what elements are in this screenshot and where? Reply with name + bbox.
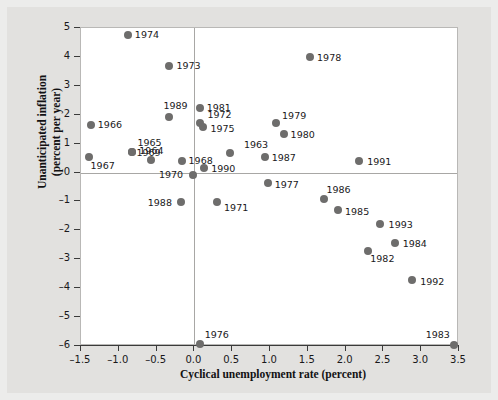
data-point-label: 1986 — [326, 185, 350, 195]
y-axis-tick — [74, 229, 80, 230]
data-point-label: 1970 — [159, 170, 183, 180]
data-point — [124, 31, 132, 39]
data-point-label: 1983 — [426, 330, 450, 340]
chart-figure: 1963196419651966196719681969197019711972… — [0, 0, 498, 400]
data-point-label: 1976 — [205, 330, 229, 340]
y-axis-tick-label: 2 — [46, 109, 70, 119]
y-axis-tick-label: 5 — [46, 22, 70, 32]
data-point-label: 1975 — [210, 124, 234, 134]
y-axis-tick — [74, 316, 80, 317]
data-point-label: 1985 — [345, 207, 369, 217]
data-point-label: 1988 — [148, 198, 172, 208]
y-axis-tick — [74, 287, 80, 288]
x-axis-tick-label: 1.5 — [290, 354, 324, 365]
data-point — [408, 276, 416, 284]
data-point-label: 1992 — [420, 277, 444, 287]
x-axis-tick — [269, 345, 270, 351]
data-point-label: 1971 — [224, 203, 248, 213]
y-axis-tick-label: –3 — [46, 253, 70, 263]
y-axis-tick-label: 0 — [46, 167, 70, 177]
x-axis-tick-label: 3.5 — [441, 354, 475, 365]
x-axis-tick — [458, 345, 459, 351]
y-axis-tick-label: 3 — [46, 80, 70, 90]
data-point-label: 1982 — [370, 254, 394, 264]
data-point — [178, 157, 186, 165]
x-axis-tick — [80, 345, 81, 351]
data-point-label: 1991 — [367, 157, 391, 167]
data-point — [320, 195, 328, 203]
data-point — [355, 157, 363, 165]
x-axis-tick-label: 0.0 — [176, 354, 210, 365]
data-point-label: 1980 — [291, 130, 315, 140]
data-point — [450, 341, 458, 349]
x-axis-tick — [231, 345, 232, 351]
data-point — [261, 153, 269, 161]
y-axis-tick-label: 4 — [46, 51, 70, 61]
y-axis-tick — [74, 27, 80, 28]
data-point — [196, 340, 204, 348]
vertical-zero-line — [194, 28, 195, 344]
x-axis-title: Cyclical unemployment rate (percent) — [180, 368, 480, 380]
x-axis-tick — [118, 345, 119, 351]
data-point — [189, 171, 197, 179]
data-point-label: 1987 — [272, 153, 296, 163]
data-point-label: 1978 — [317, 53, 341, 63]
x-axis-tick — [382, 345, 383, 351]
data-point — [264, 179, 272, 187]
y-axis-tick — [74, 114, 80, 115]
data-point-label: 1984 — [403, 239, 427, 249]
scatter-plot-area: 1963196419651966196719681969197019711972… — [80, 27, 458, 345]
data-point — [200, 164, 208, 172]
data-point — [196, 104, 204, 112]
x-axis-tick-label: 0.5 — [214, 354, 248, 365]
data-point — [87, 121, 95, 129]
data-point-label: 1989 — [163, 101, 187, 111]
data-point-label: 1990 — [211, 164, 235, 174]
x-axis-tick — [307, 345, 308, 351]
y-axis-tick — [74, 172, 80, 173]
x-axis-tick-label: 2.0 — [328, 354, 362, 365]
y-axis-tick-label: 1 — [46, 138, 70, 148]
figure-border-bottom — [0, 393, 498, 400]
x-axis-tick — [156, 345, 157, 351]
y-axis-tick — [74, 200, 80, 201]
figure-border-left — [0, 0, 7, 400]
data-point — [165, 62, 173, 70]
x-axis-tick-label: 1.0 — [252, 354, 286, 365]
y-axis-tick — [74, 56, 80, 57]
data-point — [177, 198, 185, 206]
x-axis-tick-label: –0.5 — [139, 354, 173, 365]
data-point — [165, 113, 173, 121]
data-point — [128, 148, 136, 156]
data-point-label: 1993 — [389, 220, 413, 230]
horizontal-zero-line — [81, 173, 457, 174]
y-axis-tick-label: –6 — [46, 340, 70, 350]
y-axis-tick — [74, 85, 80, 86]
x-axis-tick-label: –1.5 — [63, 354, 97, 365]
data-point-label: 1966 — [98, 120, 122, 130]
y-axis-tick-label: –5 — [46, 311, 70, 321]
data-point — [280, 130, 288, 138]
data-point — [213, 198, 221, 206]
data-point — [226, 149, 234, 157]
data-point-label: 1963 — [244, 140, 268, 150]
x-axis-tick-label: 3.0 — [403, 354, 437, 365]
x-axis-tick — [193, 345, 194, 351]
y-axis-tick — [74, 143, 80, 144]
figure-border-top — [0, 0, 498, 7]
y-axis-tick-label: –1 — [46, 195, 70, 205]
figure-border-right — [491, 0, 498, 400]
data-point-label: 1977 — [275, 180, 299, 190]
data-point — [391, 239, 399, 247]
data-point — [334, 206, 342, 214]
data-point — [199, 123, 207, 131]
data-point-label: 1973 — [176, 61, 200, 71]
x-axis-tick-label: 2.5 — [365, 354, 399, 365]
data-point — [306, 53, 314, 61]
data-point-label: 1979 — [282, 111, 306, 121]
data-point — [272, 119, 280, 127]
y-axis-tick-label: –2 — [46, 224, 70, 234]
data-point-label: 1974 — [135, 30, 159, 40]
x-axis-tick — [345, 345, 346, 351]
data-point-label: 1969 — [136, 148, 160, 158]
